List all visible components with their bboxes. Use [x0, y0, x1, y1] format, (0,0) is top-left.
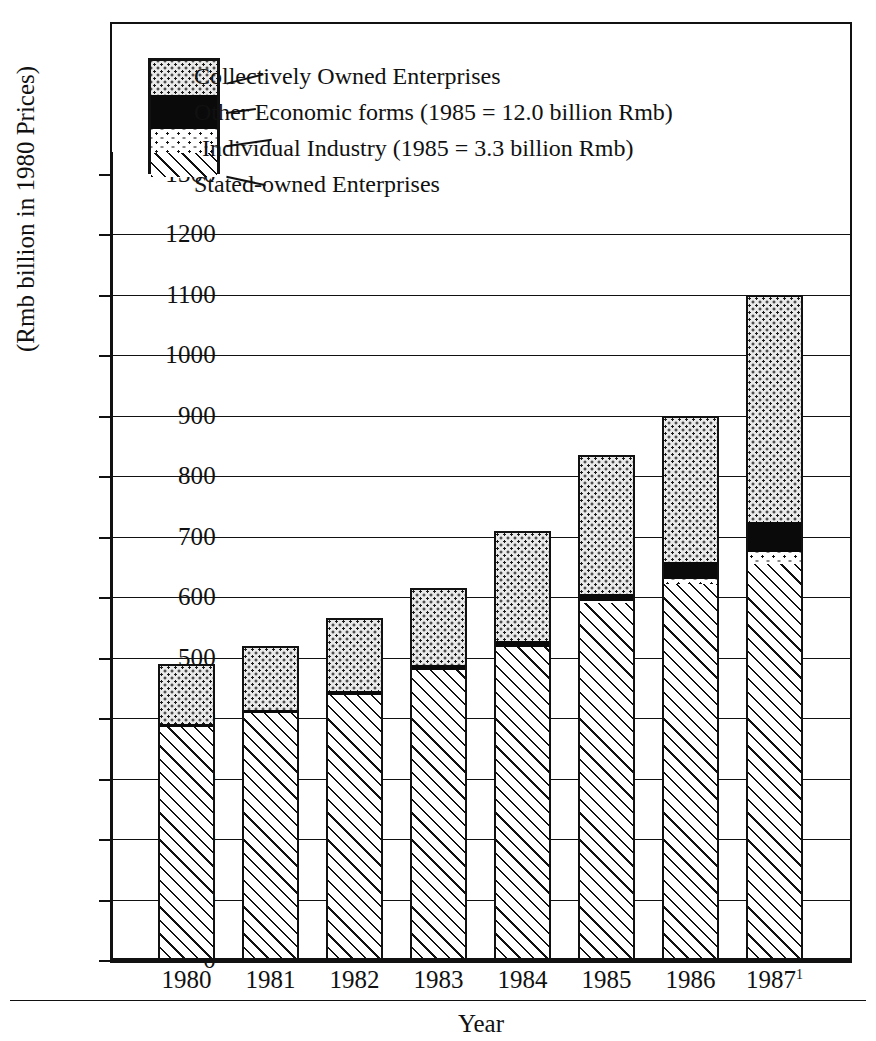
bar-segment-collective-1981[interactable]	[242, 646, 299, 710]
gridline-200	[110, 839, 852, 840]
bar-segment-state-1985[interactable]	[578, 603, 635, 960]
x-tick-label-1981: 1981	[228, 966, 314, 994]
gridline-100	[110, 900, 852, 901]
gridline-400	[110, 718, 852, 719]
bar-segment-other-1984[interactable]	[494, 641, 551, 647]
x-tick-label-1980: 1980	[144, 966, 230, 994]
chart-plot-area: (Rmb billion in 1980 Prices) 13001200110…	[110, 22, 852, 960]
x-tick-label-1986: 1986	[648, 966, 734, 994]
y-axis-title: (Rmb billion in 1980 Prices)	[12, 52, 40, 352]
bar-segment-other-1981[interactable]	[242, 710, 299, 714]
x-tick-label-1984: 1984	[480, 966, 566, 994]
bar-segment-individual-1987[interactable]	[746, 552, 803, 564]
bar-segment-collective-1985[interactable]	[578, 455, 635, 594]
bar-1987[interactable]	[746, 295, 803, 960]
x-tick-label-1983: 1983	[396, 966, 482, 994]
legend-label-other: Other Economic forms (1985 = 12.0 billio…	[194, 100, 673, 124]
page-bottom-rule	[10, 1000, 866, 1001]
legend-label-individual: Individual Industry (1985 = 3.3 billion …	[202, 136, 634, 160]
bar-segment-state-1982[interactable]	[326, 695, 383, 960]
bar-1982[interactable]	[326, 618, 383, 960]
bar-segment-individual-1986[interactable]	[662, 579, 719, 584]
bar-segment-collective-1982[interactable]	[326, 618, 383, 691]
bar-segment-state-1986[interactable]	[662, 584, 719, 960]
legend-label-state: Stated-owned Enterprises	[194, 172, 440, 196]
bar-1981[interactable]	[242, 646, 299, 960]
x-tick-label-1985: 1985	[564, 966, 650, 994]
bar-segment-other-1987[interactable]	[746, 522, 803, 552]
gridline-800	[110, 476, 852, 477]
bar-segment-collective-1986[interactable]	[662, 416, 719, 561]
bar-segment-other-1982[interactable]	[326, 691, 383, 695]
bar-segment-other-1980[interactable]	[158, 724, 215, 728]
gridline-700	[110, 537, 852, 538]
gridline-1200	[110, 234, 852, 235]
bar-1980[interactable]	[158, 664, 215, 960]
bar-segment-other-1983[interactable]	[410, 665, 467, 670]
bar-segment-state-1987[interactable]	[746, 564, 803, 960]
bar-segment-collective-1980[interactable]	[158, 664, 215, 724]
legend-label-collective: Collectively Owned Enterprises	[194, 64, 501, 88]
bar-segment-other-1986[interactable]	[662, 562, 719, 579]
x-tick-label-1987: 19871	[732, 966, 818, 994]
y-axis-line	[110, 152, 113, 962]
bar-segment-state-1983[interactable]	[410, 670, 467, 960]
bar-1986[interactable]	[662, 416, 719, 960]
gridline-300	[110, 779, 852, 780]
gridline-1000	[110, 355, 852, 356]
x-axis-title: Year	[110, 1010, 852, 1038]
bar-1984[interactable]	[494, 531, 551, 960]
footnote-marker: 1	[796, 967, 803, 982]
bar-segment-state-1981[interactable]	[242, 713, 299, 960]
bar-segment-other-1985[interactable]	[578, 594, 635, 601]
gridline-600	[110, 597, 852, 598]
bar-1983[interactable]	[410, 588, 467, 960]
x-axis-line	[110, 960, 852, 963]
bar-1985[interactable]	[578, 455, 635, 960]
gridline-500	[110, 658, 852, 659]
bar-segment-state-1984[interactable]	[494, 647, 551, 960]
bar-segment-state-1980[interactable]	[158, 727, 215, 960]
gridline-900	[110, 416, 852, 417]
bar-segment-collective-1984[interactable]	[494, 531, 551, 641]
gridline-1100	[110, 295, 852, 296]
bar-segment-collective-1983[interactable]	[410, 588, 467, 665]
bar-segment-collective-1987[interactable]	[746, 295, 803, 522]
x-tick-label-1982: 1982	[312, 966, 398, 994]
